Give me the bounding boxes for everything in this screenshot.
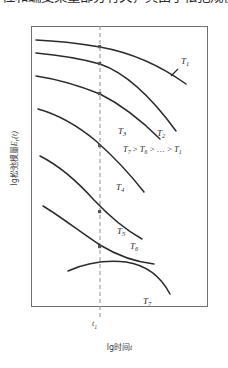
figure-page: 性和蠕变柔量部分有关，其由于松弛规模影 <box>0 0 228 368</box>
annotation-gt-1: > <box>131 144 140 154</box>
curve-T5 <box>40 156 142 239</box>
annotation-T6: T <box>140 144 145 154</box>
curve-T3 <box>36 76 160 139</box>
curve-label-T3: T3 <box>118 127 126 136</box>
marker-t1-T2 <box>98 62 101 65</box>
marker-t1-T5 <box>98 210 101 213</box>
curve-label-T2-index: 2 <box>162 132 165 139</box>
marker-t1-T6 <box>98 245 101 248</box>
x-axis-label: lg时间t <box>31 341 208 352</box>
top-caption-clip: 性和蠕变柔量部分有关，其由于松弛规模影 <box>0 0 228 13</box>
annotation-T6-index: 6 <box>145 149 148 155</box>
y-axis-label-prefix: lg松弛模量 <box>10 146 19 185</box>
annotation-gt-ellipsis: > … > <box>148 144 175 154</box>
plot-svg <box>0 14 228 368</box>
curve-label-T6: T6 <box>130 242 138 251</box>
curve-label-T4: T4 <box>116 183 124 192</box>
y-axis-label-subscript: r <box>13 139 20 142</box>
x-axis-label-symbol: t <box>130 343 132 352</box>
curve-label-T7: T7 <box>143 297 151 306</box>
annotation-T1-index: 1 <box>179 149 182 155</box>
curve-label-T3-index: 3 <box>123 130 126 137</box>
curve-T6 <box>43 206 154 264</box>
x-tick-index: 1 <box>94 324 97 330</box>
marker-t1-T1 <box>98 45 101 48</box>
curve-label-T5-index: 5 <box>122 230 125 237</box>
curve-label-T1: T1 <box>181 57 189 66</box>
x-tick-label-t1: t1 <box>92 319 97 330</box>
curve-T1 <box>36 40 186 84</box>
curve-T7 <box>68 261 170 294</box>
temperature-order-annotation: T7 > T6 > … > T1 <box>123 145 182 154</box>
curve-label-T4-index: 4 <box>121 186 124 193</box>
annotation-T7-index: 7 <box>128 149 131 155</box>
y-axis-label-suffix: (t) <box>10 131 19 139</box>
curve-label-T1-index: 1 <box>186 60 189 67</box>
curve-label-T2: T2 <box>157 129 165 138</box>
x-axis-label-prefix: lg时间 <box>107 343 130 352</box>
curve-label-T6-index: 6 <box>135 245 138 252</box>
top-caption-text: 性和蠕变柔量部分有关，其由于松弛规模影 <box>2 0 228 4</box>
y-axis-label-symbol: E <box>10 141 19 146</box>
y-axis-label: lg松弛模量Er(t) <box>8 98 21 218</box>
marker-t1-T3 <box>98 92 101 95</box>
leader-T1 <box>171 69 178 76</box>
figure-container: T1 T2 T3 T4 T5 T6 T7 T7 > T6 > … > T1 t1 <box>0 14 228 368</box>
curve-label-T5: T5 <box>117 227 125 236</box>
curve-label-T7-index: 7 <box>148 300 151 307</box>
marker-t1-T4 <box>98 144 101 147</box>
